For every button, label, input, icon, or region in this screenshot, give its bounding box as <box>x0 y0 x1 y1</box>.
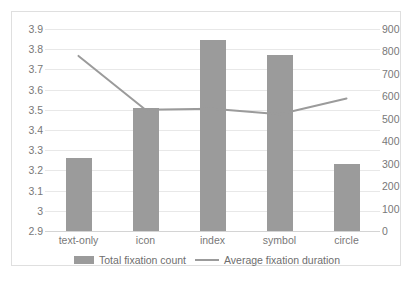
right-axis-tick-label: 600 <box>382 91 400 102</box>
legend-entry-average-fixation-duration[interactable]: Average fixation duration <box>195 255 340 266</box>
right-value-axis: 9008007006005004003002001000 <box>382 29 412 231</box>
left-axis-tick-label: 3.1 <box>28 186 43 197</box>
line-swatch-icon <box>195 259 219 261</box>
category-axis-label: symbol <box>246 234 313 247</box>
right-axis-tick-label: 100 <box>382 204 400 215</box>
right-axis-tick-label: 800 <box>382 46 400 57</box>
right-axis-tick-label: 900 <box>382 24 400 35</box>
left-axis-tick-label: 3.7 <box>28 64 43 75</box>
category-axis-label: circle <box>313 234 380 247</box>
left-axis-tick-label: 3.8 <box>28 44 43 55</box>
left-axis-tick-label: 3.5 <box>28 105 43 116</box>
right-axis-tick-label: 700 <box>382 69 400 80</box>
average-fixation-duration-line <box>79 56 347 114</box>
category-axis-label: icon <box>112 234 179 247</box>
right-axis-tick-label: 500 <box>382 114 400 125</box>
category-axis: text-onlyiconindexsymbolcircle <box>45 234 380 250</box>
left-axis-tick-label: 3.2 <box>28 165 43 176</box>
chart-frame: 3.93.83.73.63.53.43.33.23.132.9 90080070… <box>11 11 401 266</box>
right-axis-tick-label: 400 <box>382 136 400 147</box>
right-axis-tick-label: 0 <box>382 226 388 237</box>
left-axis-tick-label: 3 <box>37 206 43 217</box>
right-axis-tick-label: 300 <box>382 159 400 170</box>
left-axis-tick-label: 3.3 <box>28 145 43 156</box>
line-series <box>45 29 380 231</box>
legend-label: Average fixation duration <box>224 255 340 266</box>
left-axis-tick-label: 3.9 <box>28 24 43 35</box>
bar-swatch-icon <box>74 256 94 264</box>
category-axis-line <box>45 231 380 232</box>
left-axis-tick-label: 2.9 <box>28 226 43 237</box>
legend-label: Total fixation count <box>99 255 186 266</box>
left-axis-tick-label: 3.4 <box>28 125 43 136</box>
figure: 3.93.83.73.63.53.43.33.23.132.9 90080070… <box>0 0 412 290</box>
legend: Total fixation count Average fixation du… <box>12 255 402 266</box>
right-axis-tick-label: 200 <box>382 181 400 192</box>
category-axis-label: text-only <box>45 234 112 247</box>
legend-entry-total-fixation-count[interactable]: Total fixation count <box>74 255 186 266</box>
left-axis-tick-label: 3.6 <box>28 85 43 96</box>
left-value-axis: 3.93.83.73.63.53.43.33.23.132.9 <box>13 29 43 231</box>
category-axis-label: index <box>179 234 246 247</box>
plot-area <box>45 29 380 231</box>
